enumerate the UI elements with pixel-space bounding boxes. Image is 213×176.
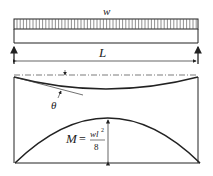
deflection-curve <box>14 77 198 89</box>
svg-text:8: 8 <box>94 142 99 152</box>
moment-diagram <box>15 118 200 163</box>
load-label: w <box>103 5 111 17</box>
tangent-line <box>14 77 83 95</box>
beam-diagram: w L θ M = wl 2 8 <box>0 0 213 176</box>
svg-text:=: = <box>79 132 86 146</box>
angle-label: θ <box>51 99 57 111</box>
svg-text:2: 2 <box>101 127 104 133</box>
svg-text:wl: wl <box>90 129 99 139</box>
moment-formula: M = wl 2 8 <box>65 127 105 152</box>
svg-text:M: M <box>65 131 78 146</box>
angle-arrow <box>58 91 61 98</box>
beam <box>14 29 198 43</box>
distributed-load <box>14 19 198 29</box>
span-label: L <box>98 45 106 60</box>
